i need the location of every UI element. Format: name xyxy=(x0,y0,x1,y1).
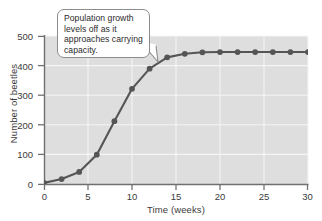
x-tick-label-0: 0 xyxy=(30,191,60,202)
data-point xyxy=(235,49,241,55)
beetle-population-chart: 0 100 200 300 400 500 0 5 10 15 20 25 30… xyxy=(0,0,322,221)
y-axis-label: Number of beetles xyxy=(8,54,19,154)
x-axis-label: Time (weeks) xyxy=(44,204,308,215)
data-point xyxy=(182,51,188,57)
data-point xyxy=(76,169,82,175)
x-tick-label-25: 25 xyxy=(249,191,279,202)
x-tick-label-30: 30 xyxy=(293,191,322,202)
x-tick-label-5: 5 xyxy=(73,191,103,202)
data-point xyxy=(252,49,258,55)
data-point xyxy=(305,49,311,55)
y-tick-label-500: 500 xyxy=(3,31,33,42)
data-point xyxy=(270,49,276,55)
x-tick-label-15: 15 xyxy=(161,191,191,202)
data-point xyxy=(200,49,206,55)
chart-plot-area xyxy=(0,0,322,221)
x-tick-label-20: 20 xyxy=(205,191,235,202)
y-axis-ticks xyxy=(38,36,44,184)
data-point xyxy=(217,49,223,55)
data-point xyxy=(129,86,135,92)
y-tick-label-0: 0 xyxy=(3,179,33,190)
carrying-capacity-callout: Population growth levels off as it appro… xyxy=(57,9,150,58)
x-tick-label-10: 10 xyxy=(117,191,147,202)
data-point xyxy=(112,118,118,124)
data-point xyxy=(94,152,100,158)
data-point xyxy=(288,49,294,55)
data-point xyxy=(59,176,65,182)
callout-text: Population growth levels off as it appro… xyxy=(64,13,144,55)
